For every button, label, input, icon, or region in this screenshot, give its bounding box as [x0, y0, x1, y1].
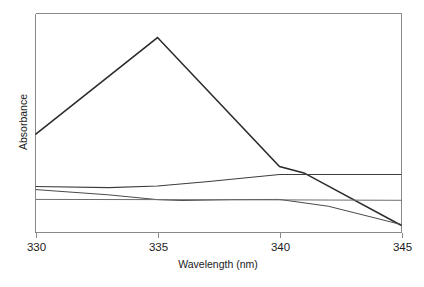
chart-svg: 330335340345 Wavelength (nm) Absorbance	[0, 0, 424, 287]
series-spectrum-1-peak	[36, 38, 402, 226]
x-axis-title: Wavelength (nm)	[178, 258, 258, 270]
series-spectrum-2-rising	[36, 174, 402, 187]
x-tick-label: 340	[271, 241, 290, 253]
y-axis-title: Absorbance	[17, 94, 29, 150]
x-tick-label: 330	[27, 241, 46, 253]
series-spectrum-3-dipping	[36, 190, 402, 225]
x-tick-label: 335	[149, 241, 168, 253]
x-axis-tick-labels: 330335340345	[27, 241, 412, 253]
x-tick-label: 345	[393, 241, 412, 253]
chart-figure: 330335340345 Wavelength (nm) Absorbance	[0, 0, 424, 287]
x-axis-ticks	[37, 233, 403, 238]
series-spectrum-4-flat	[36, 199, 402, 200]
data-series-group	[36, 38, 402, 226]
